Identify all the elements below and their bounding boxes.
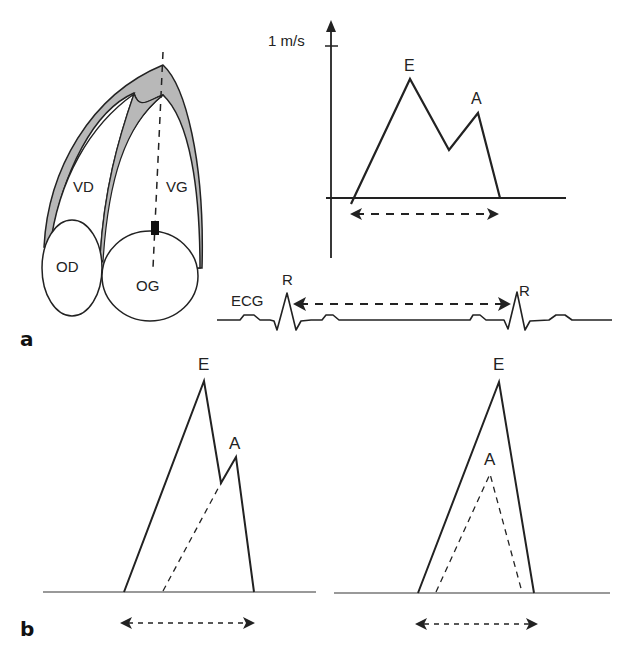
peak-e-label-right: E	[493, 355, 504, 374]
peak-a-label-left: A	[229, 434, 241, 453]
heart-diagram: VD VG OD OG	[42, 52, 202, 321]
panel-letter-b: b	[20, 617, 34, 641]
r-wave-label-1: R	[282, 271, 293, 288]
panel-b-left-chart: E A	[43, 355, 316, 629]
label-vd: VD	[73, 178, 94, 195]
y-tick-label: 1 m/s	[268, 32, 305, 49]
a-wave-dashed-right	[436, 474, 522, 592]
ecg-trace: ECG R R	[217, 271, 612, 330]
arrow-right-icon	[487, 208, 499, 220]
peak-a-label-right: A	[484, 450, 496, 469]
sample-volume-marker	[151, 221, 159, 235]
doppler-chart: 1 m/s E A	[268, 20, 566, 258]
peak-a-label: A	[471, 90, 482, 107]
e-wave-left	[124, 381, 254, 592]
peak-e-label: E	[404, 57, 415, 74]
peak-e-label-left: E	[198, 355, 209, 374]
panel-letter-a: a	[20, 327, 34, 351]
left-atrium	[102, 231, 198, 321]
label-og: OG	[136, 277, 159, 294]
figure: VD VG OD OG 1 m/s E A ECG R R a	[0, 0, 631, 651]
y-axis-arrow-icon	[326, 20, 336, 32]
e-wave-right	[418, 382, 534, 593]
ecg-label: ECG	[231, 292, 264, 309]
r-wave-label-2: R	[519, 282, 530, 299]
a-wave-dashed-left	[163, 483, 221, 591]
arrow-right-icon	[243, 617, 255, 629]
label-od: OD	[56, 258, 79, 275]
panel-b-right-chart: E A	[334, 355, 610, 630]
label-vg: VG	[166, 178, 188, 195]
ecg-waveform	[217, 292, 612, 330]
